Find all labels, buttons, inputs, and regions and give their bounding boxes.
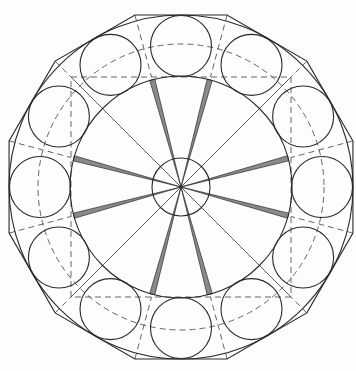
ring-circle: [221, 34, 282, 95]
geometric-diagram: [0, 0, 356, 371]
dashed-radial-line: [55, 297, 71, 313]
ring-circle: [80, 34, 141, 95]
ring-circle: [28, 227, 89, 288]
dashed-radial-line: [9, 216, 71, 233]
dashed-radial-line: [291, 61, 307, 77]
solid-outlines: [9, 15, 353, 359]
dashed-radial-line: [135, 297, 152, 359]
dashed-radial-line: [210, 15, 227, 77]
dashed-radial-line: [55, 61, 71, 77]
ring-circle: [273, 86, 334, 147]
ring-circle: [28, 86, 89, 147]
ring-circle: [273, 227, 334, 288]
diagonal-spoke: [181, 77, 291, 187]
dashed-radial-line: [291, 216, 353, 233]
dashed-radial-line: [210, 297, 227, 359]
dashed-radial-line: [9, 141, 71, 158]
ring-circle: [80, 279, 141, 340]
ring-circle: [221, 279, 282, 340]
dashed-radial-line: [135, 15, 152, 77]
dashed-radial-line: [291, 297, 307, 313]
diagonal-spoke: [181, 187, 291, 297]
diagonal-spoke: [71, 187, 181, 297]
dashed-radial-line: [291, 141, 353, 158]
diagonal-spoke: [71, 77, 181, 187]
rosette-figure: [0, 0, 356, 371]
